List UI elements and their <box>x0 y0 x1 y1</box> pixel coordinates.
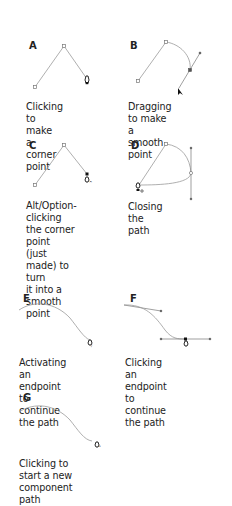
pen-new-path-icon: * <box>95 442 101 449</box>
svg-text:*: * <box>99 445 101 449</box>
panel-caption: Clicking to start a new component path <box>19 458 72 506</box>
